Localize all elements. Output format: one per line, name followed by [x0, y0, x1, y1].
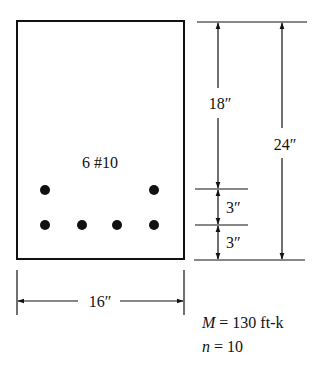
rebar-dot — [149, 185, 159, 195]
modular-ratio-parameter: n = 10 — [202, 338, 243, 355]
dimension-3in-lower-label: 3″ — [226, 234, 241, 251]
dimension-18in-label: 18″ — [209, 95, 232, 112]
dimension-16in-label: 16″ — [89, 293, 112, 310]
rebar-dot — [149, 220, 159, 230]
dimension-3in-upper-label: 3″ — [226, 199, 241, 216]
rebar-dot — [40, 185, 50, 195]
rebar-dot — [40, 220, 50, 230]
dimension-24in-label: 24″ — [274, 136, 297, 153]
beam-diagram: 6 #10 18″ 3″ 3″ 24″ 16″ M = 130 ft-k n =… — [0, 0, 329, 368]
rebar-dot — [77, 220, 87, 230]
moment-parameter: M = 130 ft-k — [201, 314, 283, 331]
reinforcement-label: 6 #10 — [82, 154, 118, 171]
rebar-group — [40, 185, 159, 230]
rebar-dot — [112, 220, 122, 230]
